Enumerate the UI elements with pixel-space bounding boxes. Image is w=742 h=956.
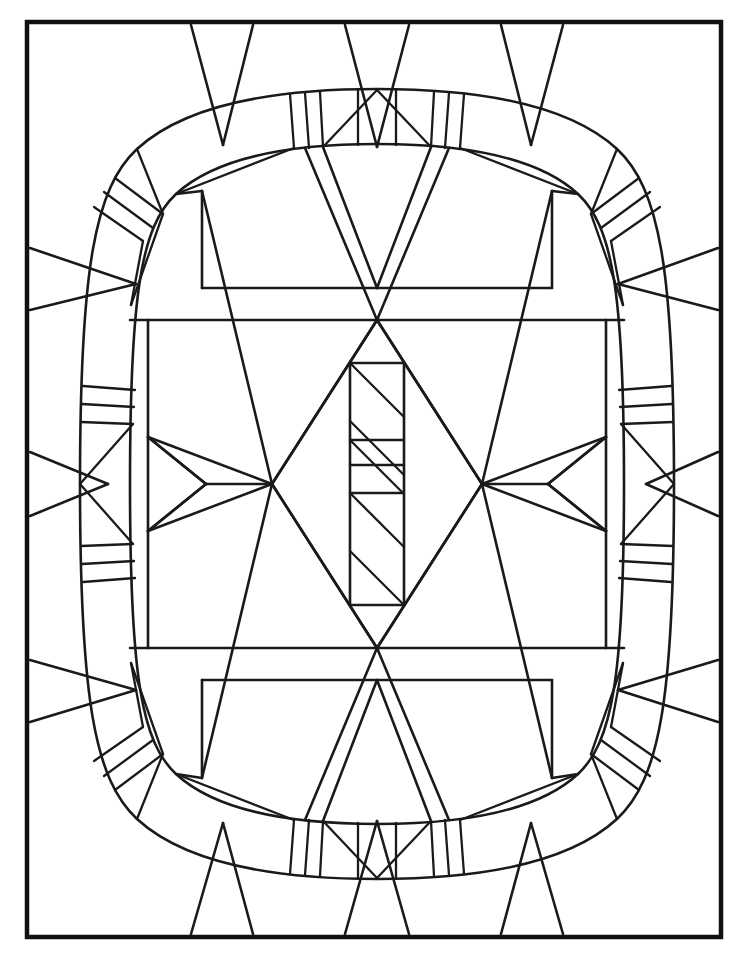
artwork-page bbox=[0, 0, 742, 956]
stained-glass-illustration bbox=[0, 0, 742, 956]
